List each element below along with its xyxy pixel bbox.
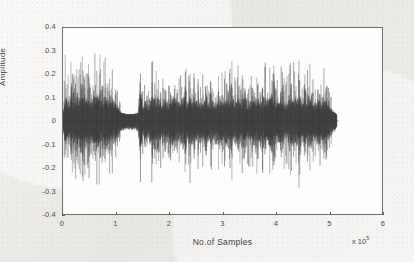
- waveform-figure: Amplitude 0.40.30.20.10-0.1-0.2-0.3-0.4 …: [0, 0, 414, 262]
- x-axis-multiplier: x 105: [352, 235, 369, 246]
- y-tick-label: 0.2: [30, 69, 56, 78]
- y-axis-label: Amplitude: [0, 48, 7, 86]
- y-tick-label: 0.3: [30, 46, 56, 55]
- y-tick-label: -0.1: [30, 140, 56, 149]
- x-axis-multiplier-exponent: 5: [366, 235, 369, 241]
- x-tick-mark: [169, 212, 170, 215]
- y-tick-label: 0.1: [30, 93, 56, 102]
- x-tick-label: 4: [266, 219, 286, 228]
- y-tick-mark: [62, 215, 65, 216]
- y-tick-label: -0.3: [30, 187, 56, 196]
- x-tick-mark: [276, 212, 277, 215]
- x-tick-mark: [330, 212, 331, 215]
- y-tick-label: 0.4: [30, 22, 56, 31]
- x-tick-mark: [116, 212, 117, 215]
- plot-area: [62, 27, 383, 215]
- waveform-trace: [63, 28, 382, 214]
- x-tick-mark: [62, 212, 63, 215]
- x-tick-label: 2: [159, 219, 179, 228]
- y-tick-label: -0.2: [30, 163, 56, 172]
- x-tick-mark: [223, 212, 224, 215]
- x-axis-label: No.of Samples: [62, 237, 383, 247]
- y-tick-label: -0.4: [30, 210, 56, 219]
- x-tick-label: 3: [213, 219, 233, 228]
- x-tick-mark: [383, 212, 384, 215]
- x-tick-label: 1: [106, 219, 126, 228]
- y-tick-label: 0: [30, 116, 56, 125]
- x-axis-multiplier-base: x 10: [352, 237, 366, 246]
- x-tick-label: 6: [373, 219, 393, 228]
- x-tick-label: 5: [320, 219, 340, 228]
- x-tick-label: 0: [52, 219, 72, 228]
